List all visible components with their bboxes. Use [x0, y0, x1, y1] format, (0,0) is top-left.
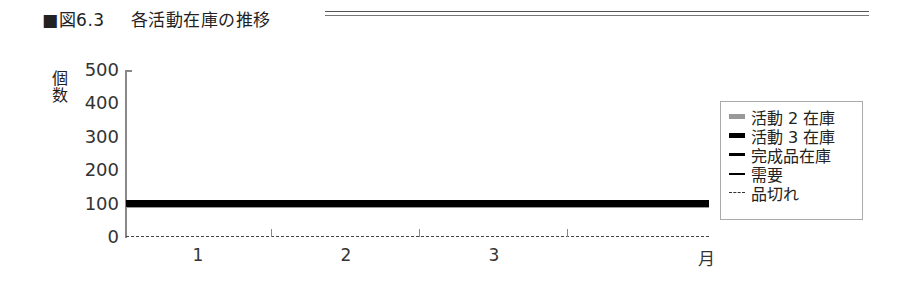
x-tick — [567, 229, 568, 237]
y-tick-200: 200 — [69, 161, 119, 179]
legend-label: 品切れ — [751, 181, 799, 205]
y-axis-label-char: 個 — [52, 70, 70, 87]
chart-legend: 活動 2 在庫 活動 3 在庫 完成品在庫 需要 品切れ — [720, 101, 863, 220]
y-axis-label: 個 数 — [52, 70, 70, 104]
y-tick-400: 400 — [69, 94, 119, 112]
series-line-demand — [126, 203, 709, 205]
x-label-1: 1 — [183, 245, 213, 265]
legend-item-stockout: 品切れ — [729, 183, 799, 202]
figure-number: ■図6.3 — [42, 10, 105, 30]
y-tick-0: 0 — [69, 228, 119, 246]
figure-title-text: 各活動在庫の推移 — [131, 10, 271, 30]
legend-swatch-black-thick — [729, 133, 745, 138]
y-axis-top-tick — [125, 70, 132, 72]
legend-swatch-gray-thick — [729, 114, 745, 119]
y-axis-label-char: 数 — [52, 87, 70, 104]
x-label-2: 2 — [331, 245, 361, 265]
title-double-rule — [325, 11, 869, 16]
x-label-3: 3 — [479, 245, 509, 265]
legend-swatch-black-medium — [729, 153, 745, 156]
y-tick-300: 300 — [69, 128, 119, 146]
x-axis-unit-label: 月 — [691, 245, 721, 270]
x-tick — [271, 229, 272, 237]
legend-swatch-black-thin — [729, 173, 745, 175]
figure-title: ■図6.3各活動在庫の推移 — [42, 6, 271, 31]
x-tick — [419, 229, 420, 237]
legend-swatch-dashed — [729, 192, 745, 193]
y-axis — [125, 70, 127, 238]
x-axis-stockout-line — [126, 236, 709, 237]
y-tick-500: 500 — [69, 61, 119, 79]
y-tick-100: 100 — [69, 195, 119, 213]
